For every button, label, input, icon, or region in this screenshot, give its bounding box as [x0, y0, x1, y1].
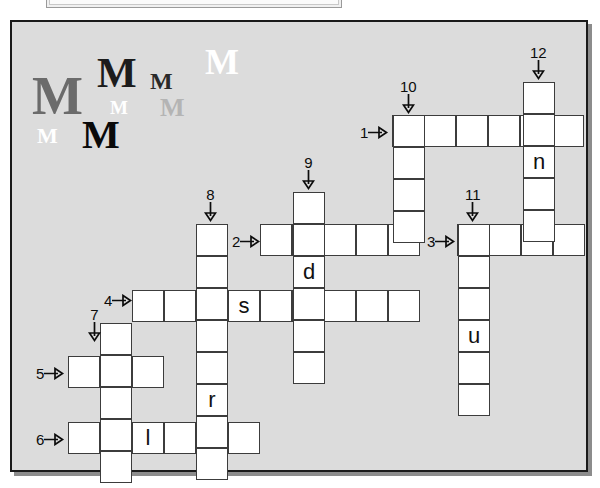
- crossword-cell[interactable]: [196, 224, 228, 256]
- arrow-down-icon: [532, 60, 545, 82]
- clue-marker-1: 1: [360, 125, 390, 140]
- clue-number: 8: [206, 187, 214, 202]
- crossword-cell[interactable]: [293, 224, 325, 256]
- crossword-cell[interactable]: [458, 352, 490, 384]
- crossword-grid[interactable]: slrdun123456789101112: [12, 22, 586, 470]
- clue-number: 9: [304, 155, 312, 170]
- arrow-right-icon: [435, 235, 457, 248]
- crossword-cell[interactable]: [196, 448, 228, 480]
- clue-number: 10: [400, 79, 417, 94]
- crossword-cell-filled[interactable]: r: [196, 384, 228, 416]
- crossword-cell[interactable]: [458, 256, 490, 288]
- crossword-cell[interactable]: [324, 290, 356, 322]
- crossword-cell[interactable]: [293, 192, 325, 224]
- crossword-cell[interactable]: [356, 290, 388, 322]
- crossword-cell[interactable]: [523, 82, 555, 114]
- crossword-cell[interactable]: [488, 115, 520, 147]
- arrow-right-icon: [44, 433, 66, 446]
- crossword-cell[interactable]: [458, 224, 490, 256]
- crossword-cell-filled[interactable]: d: [293, 256, 325, 288]
- crossword-cell[interactable]: [324, 224, 356, 256]
- crossword-cell[interactable]: [356, 224, 388, 256]
- crossword-cell[interactable]: [132, 290, 164, 322]
- crossword-cell[interactable]: [164, 290, 196, 322]
- crossword-cell[interactable]: [196, 352, 228, 384]
- crossword-cell-filled[interactable]: n: [523, 146, 555, 178]
- crossword-cell[interactable]: [553, 224, 585, 256]
- clue-marker-4: 4: [104, 293, 134, 308]
- crossword-cell[interactable]: [523, 210, 555, 242]
- crossword-cell[interactable]: [523, 114, 555, 146]
- crossword-cell[interactable]: [458, 288, 490, 320]
- clue-marker-5: 5: [36, 366, 66, 381]
- crossword-cell[interactable]: [132, 356, 164, 388]
- crossword-cell[interactable]: [393, 179, 425, 211]
- crossword-cell[interactable]: [100, 451, 132, 483]
- arrow-down-icon: [88, 322, 101, 344]
- crossword-cell-filled[interactable]: s: [228, 290, 260, 322]
- crossword-cell[interactable]: [489, 224, 521, 256]
- clue-marker-7: 7: [88, 307, 101, 344]
- clue-marker-12: 12: [530, 45, 547, 82]
- crossword-cell[interactable]: [388, 290, 420, 322]
- crossword-cell[interactable]: [164, 422, 196, 454]
- clue-marker-9: 9: [302, 155, 315, 192]
- clipped-dialog-strip: [46, 0, 342, 8]
- arrow-down-icon: [402, 94, 415, 116]
- crossword-cell[interactable]: [393, 211, 425, 243]
- crossword-cell[interactable]: [456, 115, 488, 147]
- crossword-cell[interactable]: [260, 290, 292, 322]
- clue-number: 11: [465, 187, 481, 202]
- crossword-cell[interactable]: [196, 256, 228, 288]
- clue-marker-10: 10: [400, 79, 417, 116]
- crossword-cell[interactable]: [196, 320, 228, 352]
- arrow-right-icon: [368, 126, 390, 139]
- crossword-cell-filled[interactable]: u: [458, 320, 490, 352]
- clue-number: 4: [104, 293, 112, 308]
- arrow-right-icon: [44, 367, 66, 380]
- crossword-cell[interactable]: [196, 416, 228, 448]
- crossword-cell[interactable]: [100, 323, 132, 355]
- crossword-cell[interactable]: [196, 288, 228, 320]
- arrow-down-icon: [302, 170, 315, 192]
- crossword-cell[interactable]: [393, 147, 425, 179]
- clue-marker-6: 6: [36, 432, 66, 447]
- clue-number: 1: [360, 125, 368, 140]
- crossword-cell[interactable]: [293, 288, 325, 320]
- crossword-cell[interactable]: [523, 178, 555, 210]
- crossword-cell[interactable]: [228, 422, 260, 454]
- clue-marker-8: 8: [204, 187, 217, 224]
- clue-number: 3: [427, 234, 435, 249]
- crossword-cell[interactable]: [68, 356, 100, 388]
- clue-number: 12: [530, 45, 547, 60]
- clue-number: 6: [36, 432, 44, 447]
- crossword-cell-filled[interactable]: l: [132, 422, 164, 454]
- clue-marker-3: 3: [427, 234, 457, 249]
- arrow-down-icon: [466, 202, 479, 224]
- clue-number: 7: [90, 307, 98, 322]
- crossword-cell[interactable]: [100, 355, 132, 387]
- clipped-dialog-body: [49, 0, 339, 5]
- clue-marker-2: 2: [232, 234, 262, 249]
- crossword-cell[interactable]: [552, 115, 584, 147]
- arrow-down-icon: [204, 202, 217, 224]
- crossword-cell[interactable]: [260, 224, 292, 256]
- crossword-panel: MMMMMMMM slrdun123456789101112: [10, 20, 588, 472]
- crossword-cell[interactable]: [100, 419, 132, 451]
- crossword-cell[interactable]: [293, 352, 325, 384]
- crossword-cell[interactable]: [458, 384, 490, 416]
- crossword-cell[interactable]: [393, 115, 425, 147]
- clue-marker-11: 11: [465, 187, 481, 224]
- crossword-cell[interactable]: [293, 320, 325, 352]
- clue-number: 5: [36, 366, 44, 381]
- arrow-right-icon: [112, 294, 134, 307]
- clue-number: 2: [232, 234, 240, 249]
- arrow-right-icon: [240, 235, 262, 248]
- crossword-cell[interactable]: [100, 387, 132, 419]
- crossword-cell[interactable]: [424, 115, 456, 147]
- crossword-cell[interactable]: [68, 422, 100, 454]
